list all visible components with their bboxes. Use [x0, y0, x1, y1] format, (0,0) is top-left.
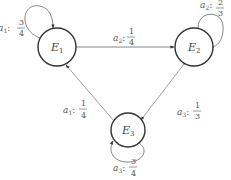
state-diagram: E1 E2 E3 a1: 3 4 a2: 1 4 a2: 2 3 a3: 1 3… [0, 0, 231, 180]
svg-text:a2:: a2: [113, 33, 125, 44]
svg-text:1: 1 [129, 27, 134, 36]
node-e1: E1 [38, 28, 76, 66]
svg-text:3: 3 [131, 157, 136, 166]
svg-text:4: 4 [81, 111, 86, 120]
svg-text:2: 2 [218, 0, 223, 7]
svg-text:4: 4 [129, 38, 134, 47]
svg-text:a2:: a2: [200, 0, 212, 11]
label-e1-e2: a2: 1 4 [113, 27, 135, 47]
svg-text:a3:: a3: [177, 107, 189, 118]
svg-text:1: 1 [81, 99, 86, 108]
label-e2-e3: a3: 1 3 [177, 101, 201, 121]
svg-text:a1:: a1: [63, 105, 75, 116]
label-e3-e1: a1: 1 4 [63, 99, 87, 120]
label-e1-loop: a1: 3 4 [0, 18, 25, 38]
node-e3: E3 [111, 113, 145, 147]
svg-text:a1:: a1: [0, 23, 10, 34]
svg-text:3: 3 [19, 18, 24, 27]
svg-text:3: 3 [195, 112, 200, 121]
svg-text:a3:: a3: [113, 163, 125, 174]
svg-text:3: 3 [218, 9, 223, 18]
svg-text:1: 1 [195, 101, 200, 110]
svg-text:4: 4 [19, 29, 24, 38]
label-e2-loop: a2: 2 3 [200, 0, 224, 18]
svg-text:4: 4 [131, 169, 136, 178]
node-e2: E2 [175, 28, 213, 66]
label-e3-loop: a3: 3 4 [113, 157, 137, 178]
